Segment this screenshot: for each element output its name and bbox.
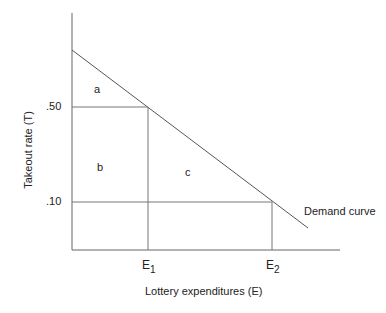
y-axis-label: Takeout rate (T) xyxy=(22,111,34,189)
x-axis-label: Lottery expenditures (E) xyxy=(145,285,262,297)
demand-curve-label: Demand curve xyxy=(304,205,376,217)
x-tick-e2: E2 xyxy=(266,258,280,275)
e2-sub: 2 xyxy=(274,264,280,275)
region-b-label: b xyxy=(97,161,103,173)
x-tick-e1: E1 xyxy=(142,258,156,275)
y-tick-010: .10 xyxy=(46,195,61,207)
region-c-label: c xyxy=(185,166,191,178)
e1-base: E xyxy=(142,258,150,272)
y-tick-050: .50 xyxy=(46,100,61,112)
e2-base: E xyxy=(266,258,274,272)
demand-curve xyxy=(72,50,308,228)
diagram-canvas xyxy=(0,0,386,313)
region-a-label: a xyxy=(94,83,100,95)
e1-sub: 1 xyxy=(150,264,156,275)
